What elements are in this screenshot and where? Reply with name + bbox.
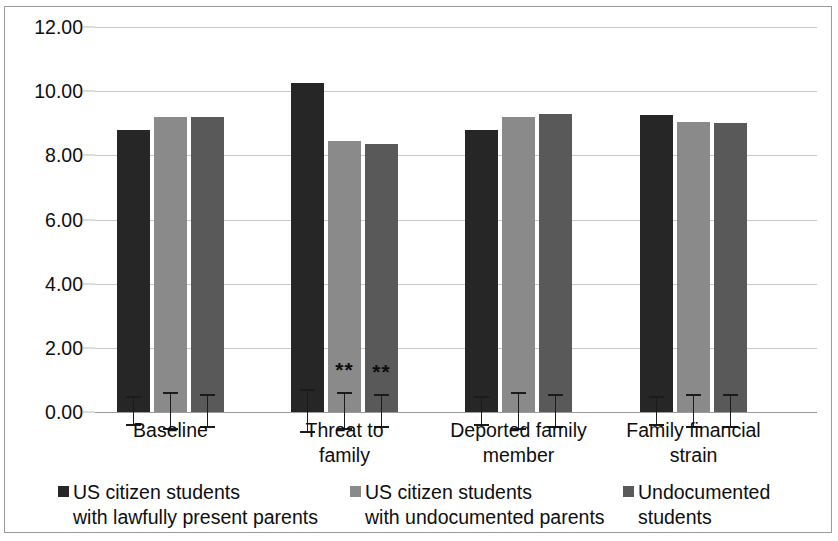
error-bar-cap-upper — [200, 394, 215, 396]
error-bar-cap-upper — [300, 389, 315, 391]
bar — [677, 122, 710, 412]
y-axis-tick-label: 6.00 — [7, 208, 83, 231]
error-bar-cap-upper — [474, 396, 489, 398]
error-bar-cap-upper — [126, 396, 141, 398]
bar-fill — [714, 123, 747, 412]
y-axis-tick-mark — [83, 283, 95, 284]
y-axis-tick-label: 4.00 — [7, 272, 83, 295]
bar: ** — [365, 144, 398, 412]
x-axis-line — [95, 412, 817, 413]
y-axis-tick-mark — [83, 27, 95, 28]
legend-item-label: US citizen students with undocumented pa… — [365, 480, 605, 530]
bar-fill — [191, 117, 224, 412]
plot-area: 0.002.004.006.008.0010.0012.00 **** — [95, 27, 817, 412]
x-axis-category-label: Family financialstrain — [584, 418, 804, 468]
legend-item-label: Undocumented students — [638, 480, 770, 530]
error-bar-cap-upper — [163, 392, 178, 394]
legend-item-label: US citizen students with lawfully presen… — [73, 480, 318, 530]
bar-chart-figure: 0.002.004.006.008.0010.0012.00 **** Base… — [0, 0, 838, 541]
bar-fill — [291, 83, 324, 412]
y-axis-tick-label: 2.00 — [7, 336, 83, 359]
bar-fill — [465, 130, 498, 412]
error-bar-cap-upper — [511, 392, 526, 394]
legend-swatch-icon — [58, 486, 69, 497]
bar: ** — [328, 141, 361, 412]
y-axis-tick-mark — [83, 155, 95, 156]
bar-fill — [640, 115, 673, 412]
x-axis-category-label-line: strain — [584, 443, 804, 468]
legend-item[interactable]: Undocumented students — [623, 480, 770, 530]
significance-marker: ** — [372, 361, 390, 382]
y-axis-tick-label: 12.00 — [7, 16, 83, 39]
bar — [154, 117, 187, 412]
y-axis-tick-label: 8.00 — [7, 144, 83, 167]
bar-fill — [154, 117, 187, 412]
bar — [640, 115, 673, 412]
bar — [465, 130, 498, 412]
bar — [117, 130, 150, 412]
error-bar-cap-upper — [374, 394, 389, 396]
y-axis-tick-mark — [83, 412, 95, 413]
legend-item[interactable]: US citizen students with undocumented pa… — [350, 480, 605, 530]
error-bar-cap-upper — [337, 392, 352, 394]
bar-group — [465, 27, 572, 412]
x-axis-category-label-line: Family financial — [584, 418, 804, 443]
x-axis-category-labels: BaselineThreat tofamilyDeported familyme… — [95, 418, 817, 476]
bar-group — [640, 27, 747, 412]
error-bar-cap-upper — [548, 394, 563, 396]
bar-fill — [117, 130, 150, 412]
bar-fill — [502, 117, 535, 412]
legend-swatch-icon — [350, 486, 361, 497]
chart-legend: US citizen students with lawfully presen… — [10, 480, 828, 536]
error-bar-cap-upper — [723, 394, 738, 396]
significance-marker: ** — [335, 359, 353, 380]
bar-group — [117, 27, 224, 412]
bar-group: **** — [291, 27, 398, 412]
legend-swatch-icon — [623, 486, 634, 497]
error-bar-cap-upper — [649, 396, 664, 398]
legend-item[interactable]: US citizen students with lawfully presen… — [58, 480, 318, 530]
bar — [191, 117, 224, 412]
bar-fill — [677, 122, 710, 412]
bar — [291, 83, 324, 412]
error-bar-cap-upper — [686, 394, 701, 396]
y-axis-tick-label: 10.00 — [7, 80, 83, 103]
bar — [714, 123, 747, 412]
bar — [502, 117, 535, 412]
bar — [539, 114, 572, 412]
y-axis-tick-mark — [83, 91, 95, 92]
y-axis-tick-mark — [83, 347, 95, 348]
y-axis-tick-mark — [83, 219, 95, 220]
bar-fill — [539, 114, 572, 412]
